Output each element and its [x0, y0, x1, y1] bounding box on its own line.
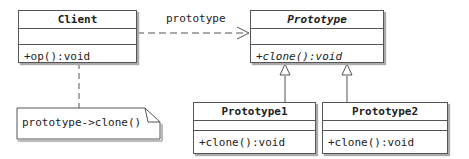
class-prototype[interactable]: Prototype +clone():void [250, 10, 384, 63]
operation: +clone():void [194, 131, 315, 157]
class-prototype1[interactable]: Prototype1 +clone():void [193, 102, 316, 154]
class-client[interactable]: Client +op():void [18, 10, 137, 63]
operation: +clone():void [251, 45, 383, 71]
class-name: Prototype [251, 11, 383, 29]
attributes-compartment [19, 29, 136, 45]
association-label: prototype [166, 12, 226, 25]
note-text: prototype->clone() [22, 116, 141, 129]
operation: +op():void [19, 45, 136, 71]
attributes-compartment [323, 121, 447, 131]
attributes-compartment [251, 29, 383, 45]
class-name: Client [19, 11, 136, 29]
class-prototype2[interactable]: Prototype2 +clone():void [322, 102, 448, 154]
operation: +clone():void [323, 131, 447, 157]
attributes-compartment [194, 121, 315, 131]
class-name: Prototype2 [323, 103, 447, 121]
class-name: Prototype1 [194, 103, 315, 121]
